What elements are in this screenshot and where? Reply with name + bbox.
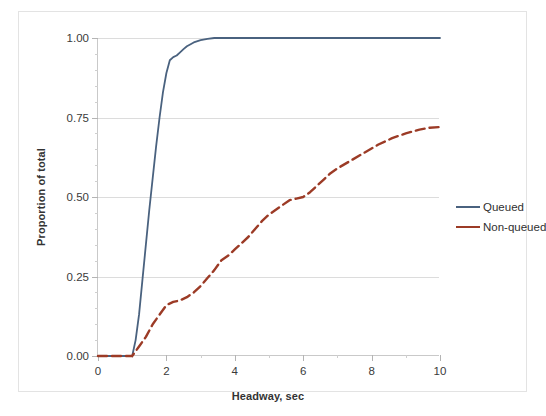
series-line-queued: [98, 38, 440, 356]
x-tick-label: 0: [95, 365, 101, 377]
y-tick-label: 0.75: [67, 112, 89, 124]
series-line-non-queued: [98, 127, 440, 356]
x-tick-major: [440, 355, 441, 361]
x-tick-label: 2: [163, 365, 169, 377]
legend-item[interactable]: Queued: [456, 200, 546, 214]
legend-label: Non-queued: [483, 221, 546, 233]
y-tick-label: 0.00: [67, 350, 89, 362]
figure: 0.000.250.500.751.00 0246810 Headway, se…: [0, 0, 546, 416]
chart-legend: QueuedNon-queued: [456, 200, 546, 234]
x-tick-label: 10: [434, 365, 447, 377]
legend-swatch-line-icon: [456, 226, 480, 228]
x-axis-title: Headway, sec: [97, 390, 439, 402]
chart-frame: 0.000.250.500.751.00 0246810 Headway, se…: [18, 11, 527, 392]
legend-swatch-line-icon: [456, 206, 480, 208]
legend-item[interactable]: Non-queued: [456, 220, 546, 234]
y-tick-label: 0.25: [67, 271, 89, 283]
y-axis-title: Proportion of total: [35, 148, 47, 246]
x-tick-label: 6: [300, 365, 306, 377]
y-tick-label: 1.00: [67, 32, 89, 44]
plot-area: 0.000.250.500.751.00 0246810: [97, 38, 439, 356]
legend-label: Queued: [483, 201, 524, 213]
data-series: [98, 38, 440, 356]
x-tick-label: 4: [232, 365, 238, 377]
y-tick-label: 0.50: [67, 191, 89, 203]
x-tick-label: 8: [368, 365, 374, 377]
